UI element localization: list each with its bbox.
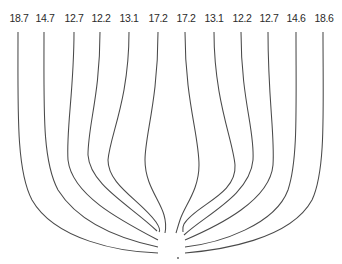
streamlines-figure — [0, 0, 342, 264]
convergence-dot — [177, 257, 179, 259]
streamline-11 — [185, 32, 296, 247]
streamline-6 — [145, 32, 166, 233]
streamline-7 — [176, 32, 199, 233]
streamline-9 — [184, 32, 253, 235]
streamline-12 — [185, 32, 323, 253]
streamline-4 — [88, 32, 157, 231]
streamline-2 — [44, 32, 158, 247]
streamline-5 — [108, 32, 160, 232]
